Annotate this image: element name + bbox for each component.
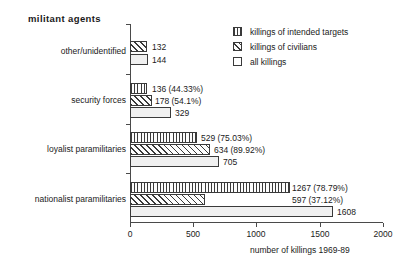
- y-tick-top: [126, 24, 130, 25]
- bar-other-unidentified-civilians: [130, 41, 147, 52]
- x-tick-label-1000: 1000: [247, 229, 266, 239]
- y-axis-title: militant agents: [28, 13, 101, 24]
- bar-loyalist-paramilitaries-civilians: [130, 144, 210, 155]
- bar-nationalist-paramilitaries-intended-targets: [130, 182, 290, 193]
- legend-item-civilians: killings of civilians: [233, 39, 348, 54]
- legend: killings of intended targets killings of…: [233, 24, 348, 69]
- bar-label-nationalist-paramilitaries-all: 1608: [337, 207, 356, 217]
- x-tick-label-1500: 1500: [311, 229, 330, 239]
- legend-swatch-plain-fill-icon: [233, 57, 242, 66]
- legend-label-intended-targets: killings of intended targets: [250, 27, 348, 37]
- bar-security-forces-all: [130, 107, 171, 118]
- bar-loyalist-paramilitaries-intended-targets: [130, 132, 197, 143]
- bar-label-security-forces-civilians: 178 (54.1%): [155, 96, 201, 106]
- bar-label-security-forces-intended-targets: 136 (44.33%): [152, 84, 203, 94]
- legend-item-intended-targets: killings of intended targets: [233, 24, 348, 39]
- bar-other-unidentified-all: [130, 54, 148, 65]
- y-tick-sep-1: [126, 74, 130, 75]
- legend-label-all-killings: all killings: [250, 57, 286, 67]
- legend-swatch-vertical-stripes-icon: [233, 27, 242, 36]
- x-tick-label-0: 0: [128, 229, 133, 239]
- x-tick-label-2000: 2000: [374, 229, 393, 239]
- x-tick-2000: [383, 223, 384, 227]
- category-label-security-forces: security forces: [71, 95, 126, 105]
- bar-nationalist-paramilitaries-civilians: [130, 194, 205, 205]
- legend-item-all-killings: all killings: [233, 54, 348, 69]
- category-label-other-unidentified: other/unidentified: [61, 46, 126, 56]
- x-tick-1500: [320, 223, 321, 227]
- bar-label-nationalist-paramilitaries-intended-targets: 1267 (78.79%): [292, 183, 348, 193]
- legend-swatch-diagonal-hatch-icon: [233, 42, 242, 51]
- x-tick-500: [193, 223, 194, 227]
- bar-security-forces-intended-targets: [130, 83, 147, 94]
- legend-label-civilians: killings of civilians: [250, 42, 317, 52]
- category-label-nationalist-paramilitaries: nationalist paramilitaries: [35, 194, 126, 204]
- x-tick-label-500: 500: [186, 229, 200, 239]
- bar-label-loyalist-paramilitaries-all: 705: [223, 157, 237, 167]
- x-axis-title: number of killings 1969-89: [250, 245, 350, 255]
- y-tick-sep-3: [126, 173, 130, 174]
- x-tick-0: [130, 223, 131, 227]
- bar-security-forces-civilians: [130, 95, 152, 106]
- x-tick-1000: [256, 223, 257, 227]
- bar-label-other-unidentified-all: 144: [152, 55, 166, 65]
- category-label-loyalist-paramilitaries: loyalist paramilitaries: [47, 144, 126, 154]
- bar-chart: militant agents 0 500 1000 1500 2000 oth…: [0, 0, 415, 266]
- bar-loyalist-paramilitaries-all: [130, 156, 219, 167]
- bar-label-loyalist-paramilitaries-civilians: 634 (89.92%): [214, 145, 265, 155]
- bar-label-other-unidentified-civilians: 132: [152, 42, 166, 52]
- bar-nationalist-paramilitaries-all: [130, 206, 333, 217]
- bar-label-security-forces-all: 329: [175, 108, 189, 118]
- y-tick-sep-2: [126, 124, 130, 125]
- bar-label-nationalist-paramilitaries-civilians: 597 (37.12%): [292, 195, 343, 205]
- bar-label-loyalist-paramilitaries-intended-targets: 529 (75.03%): [201, 133, 252, 143]
